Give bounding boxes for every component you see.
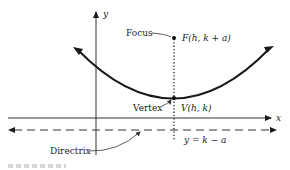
parabola-diagram: y x Focus F(h, k + a) Vertex V(h, k) Dir… <box>0 0 290 170</box>
vertex-coord-label: V(h, k) <box>181 103 212 113</box>
directrix-label: Directrix <box>50 146 91 156</box>
vertex-leader <box>162 100 171 106</box>
y-axis-label: y <box>102 9 109 19</box>
directrix-left-arrow <box>8 127 15 133</box>
focus-point <box>172 36 176 40</box>
directrix-equation: y = k − a <box>183 135 226 145</box>
directrix-right-arrow <box>270 127 277 133</box>
vertex-label: Vertex <box>132 103 162 113</box>
focus-label: Focus <box>126 28 153 38</box>
focus-coord-label: F(h, k + a) <box>181 33 231 43</box>
focus-leader <box>152 33 171 37</box>
figure-caption-cutoff <box>8 164 66 168</box>
vertex-point <box>172 96 176 100</box>
directrix-leader <box>89 132 140 151</box>
x-axis-label: x <box>276 113 281 123</box>
